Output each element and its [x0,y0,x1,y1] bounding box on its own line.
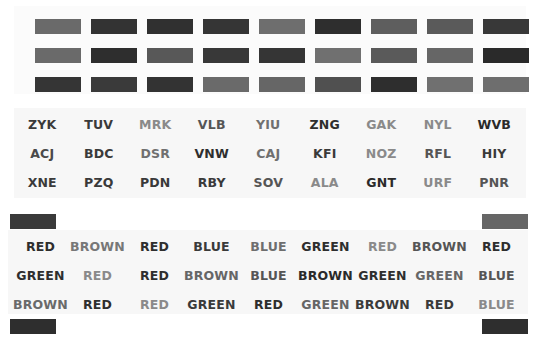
color-swatch [315,77,361,92]
color-word: BLUE [478,297,515,312]
letter-string-grid: ZYKTUVMRKVLBYIUZNGGAKNYLWVBACJBDCDSRVNWC… [14,110,523,197]
color-swatch [315,48,361,63]
color-word: BLUE [250,239,287,254]
letter-string: RFL [424,146,451,161]
color-word: RED [140,297,169,312]
letter-string: NOZ [366,146,397,161]
color-swatch [371,19,417,34]
color-word: RED [140,268,169,283]
color-swatch [147,48,193,63]
letter-string: TUV [84,117,113,132]
color-swatch [203,48,249,63]
letter-string: PDN [140,175,171,190]
color-word: GREEN [301,239,349,254]
color-swatch [483,48,529,63]
color-swatch [427,19,473,34]
color-word: RED [482,239,511,254]
color-swatch [91,77,137,92]
color-word: RED [368,239,397,254]
color-swatch [147,19,193,34]
letter-string: ZYK [28,117,56,132]
color-word: RED [83,268,112,283]
color-word: RED [140,239,169,254]
color-swatch [35,77,81,92]
color-swatch [91,19,137,34]
color-swatch [203,19,249,34]
letter-string: VLB [198,117,226,132]
color-swatch [35,19,81,34]
edge-marker-bottom-left [10,319,56,334]
color-swatch [259,77,305,92]
letter-string: NYL [424,117,452,132]
color-swatch [259,19,305,34]
color-word: RED [425,297,454,312]
color-word: BLUE [478,268,515,283]
letter-string: HIY [482,146,507,161]
color-swatch [371,48,417,63]
color-swatch-grid [35,19,529,92]
color-swatch [371,77,417,92]
color-word: RED [254,297,283,312]
color-swatch [91,48,137,63]
letter-string: VNW [194,146,229,161]
color-swatch [483,19,529,34]
letter-string: XNE [28,175,57,190]
letter-string: ALA [311,175,339,190]
color-word: GREEN [358,268,406,283]
letter-string: RBY [198,175,226,190]
color-swatch [203,77,249,92]
letter-string: PZQ [84,175,113,190]
letter-string: SOV [253,175,283,190]
color-word: BROWN [298,268,353,283]
color-word: BROWN [13,297,68,312]
color-swatch [315,19,361,34]
letter-string: MRK [139,117,171,132]
edge-marker-bottom-right [482,319,528,334]
color-word: BROWN [184,268,239,283]
color-swatch [427,77,473,92]
edge-marker-top-left [10,214,56,229]
letter-string: GNT [366,175,396,190]
letter-string: ACJ [30,146,54,161]
color-word: BLUE [250,268,287,283]
edge-marker-top-right [482,214,528,229]
color-word: RED [83,297,112,312]
letter-string: KFI [313,146,336,161]
color-swatch [483,77,529,92]
color-word: BROWN [70,239,125,254]
letter-string: BDC [84,146,114,161]
color-swatch [147,77,193,92]
color-word: BROWN [412,239,467,254]
color-swatch [427,48,473,63]
letter-string: PNR [479,175,509,190]
letter-string: URF [423,175,452,190]
letter-string: WVB [477,117,511,132]
color-word: GREEN [415,268,463,283]
color-word: GREEN [187,297,235,312]
letter-string: DSR [140,146,170,161]
color-swatch [35,48,81,63]
letter-string: ZNG [310,117,340,132]
letter-string: CAJ [256,146,280,161]
color-word: GREEN [16,268,64,283]
color-word: RED [26,239,55,254]
letter-string: YIU [256,117,280,132]
color-word-grid: REDBROWNREDBLUEBLUEGREENREDBROWNREDGREEN… [12,232,525,319]
color-swatch [259,48,305,63]
color-word: GREEN [301,297,349,312]
color-word: BLUE [193,239,230,254]
color-swatch-panel [14,6,526,94]
letter-string: GAK [366,117,396,132]
color-word: BROWN [355,297,410,312]
